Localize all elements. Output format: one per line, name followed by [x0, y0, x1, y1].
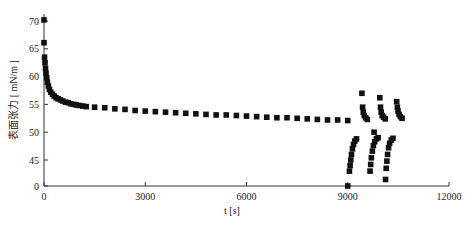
data-point — [163, 109, 169, 115]
y-tick-label: 65 — [29, 43, 39, 54]
y-tick-label: 50 — [29, 127, 39, 138]
data-point — [193, 111, 199, 117]
data-point — [360, 104, 366, 110]
chart-canvas: 0455055606570 030006000900012000 t [s] 表… — [0, 0, 474, 225]
data-point — [223, 112, 229, 118]
data-point — [183, 110, 189, 116]
data-point — [347, 163, 353, 169]
y-tick-label: 0 — [34, 181, 39, 192]
y-tick-label: 60 — [29, 71, 39, 82]
data-point — [348, 157, 354, 163]
data-point — [153, 109, 159, 115]
data-point — [41, 40, 47, 46]
data-point — [382, 116, 388, 122]
data-point — [173, 110, 179, 116]
data-point — [234, 113, 240, 119]
data-point — [203, 112, 209, 118]
y-tick-label: 70 — [29, 16, 39, 27]
data-point — [371, 129, 377, 135]
data-point — [304, 116, 310, 122]
data-point — [394, 99, 400, 105]
data-point — [384, 158, 390, 164]
data-point — [325, 117, 331, 123]
x-tick-label: 6000 — [237, 191, 257, 202]
x-tick-label: 12000 — [437, 191, 462, 202]
data-point — [354, 136, 360, 142]
data-point — [345, 118, 351, 124]
data-point — [132, 108, 138, 114]
data-point — [264, 114, 270, 120]
x-tick-label: 9000 — [338, 191, 358, 202]
data-point — [284, 115, 290, 121]
data-point — [385, 152, 391, 158]
data-point — [43, 65, 49, 71]
data-point — [92, 104, 98, 110]
data-point — [315, 117, 321, 123]
data-point — [349, 152, 355, 158]
data-point — [254, 114, 260, 120]
data-point — [42, 60, 48, 66]
data-point — [213, 112, 219, 118]
data-point — [370, 148, 376, 154]
data-point — [41, 17, 47, 23]
data-point — [102, 105, 108, 111]
data-points — [41, 17, 405, 189]
data-point — [399, 116, 405, 122]
data-point — [369, 155, 375, 161]
data-point — [368, 162, 374, 168]
y-tick-label: 45 — [29, 155, 39, 166]
data-point — [83, 104, 89, 110]
data-point — [274, 115, 280, 121]
data-point — [335, 117, 341, 123]
data-point — [345, 183, 351, 189]
data-point — [375, 135, 381, 141]
data-point — [365, 117, 371, 123]
data-point — [294, 116, 300, 122]
data-point — [244, 113, 250, 119]
data-point — [383, 177, 389, 183]
x-ticks: 030006000900012000 — [42, 182, 462, 202]
data-point — [359, 90, 365, 96]
data-point — [347, 168, 353, 174]
data-point — [367, 168, 373, 174]
y-tick-label: 55 — [29, 99, 39, 110]
data-point — [112, 106, 118, 112]
x-tick-label: 0 — [42, 191, 47, 202]
x-axis-title: t [s] — [224, 205, 240, 216]
data-point — [377, 95, 383, 101]
data-point — [390, 136, 396, 142]
data-point — [142, 108, 148, 114]
x-tick-label: 3000 — [135, 191, 155, 202]
data-point — [42, 54, 48, 60]
data-point — [383, 166, 389, 172]
data-point — [122, 107, 128, 113]
data-point — [378, 104, 384, 110]
y-axis-title: 表面张力 [ mN/m ] — [7, 60, 19, 140]
